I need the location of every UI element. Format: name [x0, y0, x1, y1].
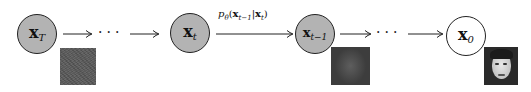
clean-face-image: [484, 47, 518, 85]
arrow-icon: [63, 29, 93, 39]
eye-left: [495, 63, 499, 65]
arrow-icon: [408, 29, 444, 39]
ellipsis: ···: [376, 24, 401, 40]
node-x-0: x0: [446, 16, 486, 56]
hair-shape: [490, 49, 513, 59]
node-label: x0: [458, 27, 474, 45]
node-label: xt−1: [303, 26, 328, 42]
eye-right: [503, 63, 507, 65]
noise-image: [60, 48, 96, 85]
arrow-icon: [340, 29, 372, 39]
node-x-T: xT: [17, 14, 57, 54]
ellipsis: ···: [98, 24, 123, 40]
node-x-t-minus-1: xt−1: [295, 14, 335, 54]
node-label: xt: [183, 24, 197, 42]
node-label: xT: [29, 25, 45, 43]
transition-arrow-icon: [216, 29, 294, 39]
node-x-t: xt: [170, 13, 210, 53]
mouth-shape: [498, 74, 505, 76]
transition-label: pθ(xt−1|xt): [218, 8, 268, 22]
partially-denoised-face-image: [331, 47, 370, 85]
arrow-icon: [130, 29, 160, 39]
